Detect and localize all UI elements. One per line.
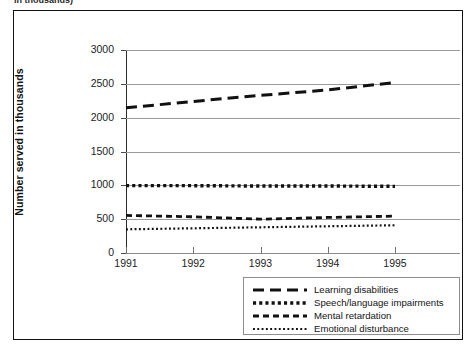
x-tick-label: 1995 [372, 257, 418, 269]
gridline [126, 219, 460, 220]
y-axis-title: Number served in thousands [13, 47, 25, 237]
legend-line-sample [252, 284, 308, 296]
y-tick-mark [121, 50, 126, 51]
legend-label: Learning disabilities [314, 284, 398, 295]
series-line [126, 225, 395, 229]
y-tick-mark [121, 152, 126, 153]
legend-label: Speech/language impairments [314, 297, 444, 308]
gridline [126, 50, 460, 51]
y-tick-mark [121, 219, 126, 220]
legend-line-sample [252, 323, 308, 335]
x-tick-mark [328, 247, 329, 253]
legend-line-sample [252, 297, 308, 309]
y-tick-mark [121, 84, 126, 85]
y-tick-mark [121, 118, 126, 119]
series-line [126, 82, 395, 107]
legend-item[interactable]: Emotional disturbance [252, 322, 409, 335]
x-tick-mark [395, 247, 396, 253]
x-tick-label: 1993 [238, 257, 284, 269]
x-tick-mark [193, 247, 194, 253]
legend-item[interactable]: Learning disabilities [252, 283, 398, 296]
y-tick-label: 2000 [70, 111, 114, 123]
legend-item[interactable]: Speech/language impairments [252, 296, 444, 309]
legend-item[interactable]: Mental retardation [252, 309, 391, 322]
y-tick-label: 500 [70, 212, 114, 224]
chart-legend: Learning disabilitiesSpeech/language imp… [243, 277, 460, 335]
x-tick-label: 1992 [170, 257, 216, 269]
y-tick-mark [121, 253, 126, 254]
gridline [126, 185, 460, 186]
gridline [126, 84, 460, 85]
y-tick-mark [121, 185, 126, 186]
y-tick-label: 1500 [70, 145, 114, 157]
legend-label: Mental retardation [314, 310, 391, 321]
x-tick-label: 1991 [103, 257, 149, 269]
gridline [126, 118, 460, 119]
x-axis-line [126, 253, 460, 254]
x-tick-mark [126, 247, 127, 253]
x-tick-mark [261, 247, 262, 253]
legend-line-sample [252, 310, 308, 322]
legend-label: Emotional disturbance [314, 323, 409, 334]
y-tick-label: 3000 [70, 43, 114, 55]
y-tick-label: 1000 [70, 178, 114, 190]
x-tick-label: 1994 [305, 257, 351, 269]
y-tick-label: 2500 [70, 77, 114, 89]
gridline [126, 152, 460, 153]
